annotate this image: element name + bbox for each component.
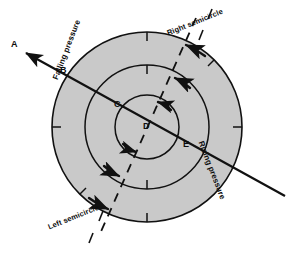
point-label-a: A bbox=[11, 40, 18, 49]
point-label-c: C bbox=[114, 100, 121, 109]
left-semicircle-callout-tick bbox=[99, 211, 103, 221]
diagram-root: A B C D E Falling pressure Rising pressu… bbox=[0, 0, 289, 257]
point-label-d: D bbox=[143, 122, 150, 131]
point-label-e: E bbox=[183, 140, 189, 149]
right-semicircle-callout-tick-2 bbox=[199, 30, 203, 40]
left-semicircle-callout-tick-2 bbox=[89, 233, 93, 243]
